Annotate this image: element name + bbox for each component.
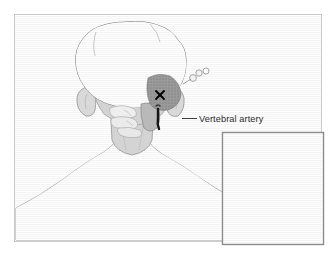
illustration-canvas: Vertebral artery: [0, 0, 335, 257]
medical-illustration: Vertebral artery: [0, 0, 335, 257]
vertebral-artery-label: Vertebral artery: [199, 114, 264, 124]
inset-content: [224, 132, 322, 243]
lateral-profile-inset: [223, 132, 324, 245]
inset-texture: [224, 134, 322, 243]
